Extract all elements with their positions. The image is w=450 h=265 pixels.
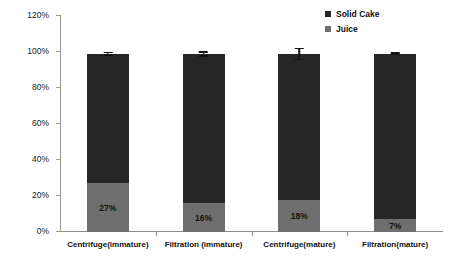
x-tick: [156, 231, 157, 236]
x-axis-label: Centrifuge(mature): [263, 240, 335, 249]
error-bar: [299, 48, 301, 61]
bar-segment-solid-cake: [87, 54, 129, 184]
legend-swatch-juice: [325, 26, 331, 32]
legend-item-solid-cake: Solid Cake: [325, 9, 379, 19]
error-bar: [203, 51, 205, 56]
y-tick-label: 120%: [27, 10, 49, 20]
y-tick: 100%: [56, 51, 61, 52]
bar-value-label: 16%: [183, 213, 225, 223]
y-tick: 120%: [56, 15, 61, 16]
bar: 7%: [374, 54, 416, 232]
bar: 16%: [183, 54, 225, 232]
error-bar: [107, 52, 109, 56]
bar-segment-solid-cake: [374, 54, 416, 220]
bar-segment-solid-cake: [278, 54, 320, 200]
plot-area: 0%20%40%60%80%100%120% 27%16%18%7%: [60, 16, 443, 232]
legend-swatch-solid-cake: [325, 11, 331, 17]
y-tick-label: 20%: [32, 190, 49, 200]
bar-segment-juice: 7%: [374, 219, 416, 232]
bar-value-label: 27%: [87, 203, 129, 213]
bar-segment-juice: 18%: [278, 200, 320, 232]
y-axis-line: [60, 16, 61, 232]
bar-segment-juice: 16%: [183, 203, 225, 232]
x-tick: [347, 231, 348, 236]
x-axis-label: Centrifuge(immature): [67, 240, 148, 249]
bar-segment-solid-cake: [183, 54, 225, 203]
y-tick: 20%: [56, 195, 61, 196]
x-axis-label: Filtration (immature): [165, 240, 243, 249]
y-tick-label: 0%: [37, 226, 49, 236]
x-tick: [252, 231, 253, 236]
x-axis-labels: Centrifuge(immature)Filtration (immature…: [60, 240, 445, 256]
bar-value-label: 7%: [374, 221, 416, 231]
y-tick-label: 60%: [32, 118, 49, 128]
bar-chart: Proportion of PM as Dry Matter 0%20%40%6…: [0, 0, 450, 265]
bar-value-label: 18%: [278, 211, 320, 221]
legend-label-juice: Juice: [336, 24, 358, 34]
error-bar: [394, 52, 396, 55]
y-tick: 0%: [56, 231, 61, 232]
legend-item-juice: Juice: [325, 24, 379, 34]
y-tick-label: 40%: [32, 154, 49, 164]
y-tick: 40%: [56, 159, 61, 160]
y-tick: 60%: [56, 123, 61, 124]
y-tick-label: 100%: [27, 46, 49, 56]
bar: 27%: [87, 54, 129, 232]
chart-legend: Solid Cake Juice: [325, 9, 379, 39]
y-tick: 80%: [56, 87, 61, 88]
y-tick-label: 80%: [32, 82, 49, 92]
bar: 18%: [278, 54, 320, 232]
legend-label-solid-cake: Solid Cake: [336, 9, 379, 19]
bar-segment-juice: 27%: [87, 183, 129, 232]
x-axis-label: Filtration(mature): [362, 240, 428, 249]
